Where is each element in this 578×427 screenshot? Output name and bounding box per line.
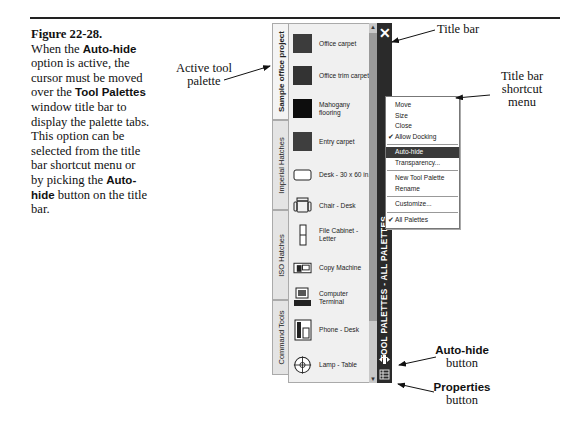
menu-item-size[interactable]: Size [386, 111, 459, 122]
menu-item-move[interactable]: Move [386, 100, 459, 111]
caption-term: Auto-hide [83, 43, 137, 55]
palette-title-text: TOOL PALETTES - ALL PALETTES [380, 216, 390, 360]
menu-label: Close [395, 122, 412, 129]
callout-title-bar: Title bar [437, 23, 479, 36]
tool-palettes-window: Sample office project Imperial Hatches I… [272, 23, 392, 383]
menu-label: Allow Docking [395, 133, 436, 140]
top-rule [30, 17, 560, 19]
palette-title: TOOL PALETTES - ALL PALETTES [377, 223, 392, 353]
menu-item-transparency[interactable]: Transparency... [386, 158, 459, 169]
figure-label: Figure 22-28. [31, 27, 151, 42]
menu-label: All Palettes [395, 216, 428, 223]
title-bar-shortcut-menu: Move Size Close ✔Allow Docking Auto-hide… [385, 96, 460, 229]
tab-label: Imperial Hatches [277, 137, 286, 193]
callout-line: palette [176, 75, 232, 88]
file-cabinet-icon [293, 224, 312, 246]
scroll-up-arrow-icon[interactable]: ▲ [369, 23, 377, 31]
auto-hide-button[interactable] [379, 354, 390, 365]
menu-item-allow-docking[interactable]: ✔Allow Docking [386, 132, 459, 143]
swatch-icon [293, 66, 312, 85]
chair-icon [293, 196, 312, 215]
lamp-icon [293, 354, 312, 376]
swatch-icon [293, 34, 312, 53]
check-icon: ✔ [388, 132, 394, 143]
auto-hide-icon [379, 354, 390, 365]
callout-line: button [432, 357, 492, 370]
tab-iso-hatches[interactable]: ISO Hatches [272, 210, 289, 300]
callout-auto-hide-button: Auto-hide button [432, 344, 492, 370]
palette-content: Office carpet Office trim carpet Mahogan… [288, 23, 369, 383]
tool-computer-terminal[interactable]: Computer Terminal [293, 287, 371, 309]
tab-imperial-hatches[interactable]: Imperial Hatches [272, 120, 289, 210]
menu-separator [387, 196, 458, 197]
tab-label: ISO Hatches [277, 234, 286, 277]
tool-lamp-table[interactable]: Lamp - Table [293, 354, 371, 376]
menu-separator [387, 170, 458, 171]
tool-entry-carpet[interactable]: Entry carpet [293, 132, 371, 151]
callout-properties-button: Properties button [430, 381, 494, 407]
menu-item-auto-hide[interactable]: Auto-hide [386, 147, 459, 158]
tool-label: Desk - 30 x 60 in. [319, 171, 370, 179]
check-icon: ✔ [388, 215, 394, 226]
scrollbar-thumb[interactable] [369, 33, 377, 321]
callout-line: menu [492, 96, 552, 109]
menu-item-all-palettes[interactable]: ✔All Palettes [386, 215, 459, 226]
tool-label: File Cabinet - Letter [319, 227, 371, 243]
tool-file-cabinet[interactable]: File Cabinet - Letter [293, 224, 371, 246]
menu-label: Size [395, 112, 408, 119]
menu-item-new-tool-palette[interactable]: New Tool Palette [386, 173, 459, 184]
menu-item-customize[interactable]: Customize... [386, 199, 459, 210]
menu-separator [387, 144, 458, 145]
phone-icon [293, 319, 312, 341]
tool-label: Computer Terminal [319, 290, 371, 306]
menu-separator [387, 212, 458, 213]
tab-label: Command Tools [277, 310, 286, 364]
tool-label: Entry carpet [319, 138, 355, 146]
menu-label: Rename [395, 185, 420, 192]
tool-label: Office trim carpet [319, 72, 369, 80]
callout-title-bar-shortcut-menu: Title bar shortcut menu [492, 70, 552, 109]
copy-machine-icon [293, 258, 312, 277]
tool-label: Office carpet [319, 40, 356, 48]
palette-tabs: Sample office project Imperial Hatches I… [272, 23, 289, 383]
menu-label: New Tool Palette [395, 174, 444, 181]
tab-sample-office-project[interactable]: Sample office project [272, 23, 289, 120]
tool-chair-desk[interactable]: Chair - Desk [293, 196, 371, 215]
scroll-down-arrow-icon[interactable]: ▼ [369, 375, 377, 383]
callout-line: button [430, 394, 494, 407]
menu-item-close[interactable]: Close [386, 121, 459, 132]
caption-text: When the [31, 42, 83, 56]
tool-label: Chair - Desk [319, 202, 356, 210]
menu-label: Move [395, 101, 411, 108]
menu-label: Transparency... [395, 159, 440, 166]
desk-icon [293, 165, 312, 184]
tab-command-tools[interactable]: Command Tools [272, 300, 289, 375]
close-icon[interactable]: ✕ [377, 25, 392, 41]
tool-label: Phone - Desk [319, 326, 359, 334]
menu-item-rename[interactable]: Rename [386, 184, 459, 195]
menu-label: Auto-hide [395, 148, 423, 155]
tool-mahogany-flooring[interactable]: Mahogany flooring [293, 99, 371, 118]
tool-office-carpet[interactable]: Office carpet [293, 34, 371, 53]
figure-caption: Figure 22-28. When the Auto-hide option … [31, 27, 151, 217]
tool-label: Lamp - Table [319, 361, 357, 369]
tool-desk[interactable]: Desk - 30 x 60 in. [293, 165, 371, 184]
tool-copy-machine[interactable]: Copy Machine [293, 258, 371, 277]
caption-term: Tool Palettes [75, 86, 146, 98]
tool-office-trim-carpet[interactable]: Office trim carpet [293, 66, 371, 85]
swatch-icon [293, 99, 312, 118]
tab-label: Sample office project [277, 31, 286, 112]
callout-active-tool-palette: Active tool palette [176, 62, 232, 88]
palette-scrollbar[interactable]: ▲ ▼ [369, 23, 377, 383]
swatch-icon [293, 132, 312, 151]
tool-label: Mahogany flooring [319, 101, 371, 117]
tool-label: Copy Machine [319, 264, 361, 272]
tool-phone-desk[interactable]: Phone - Desk [293, 319, 371, 341]
menu-label: Customize... [395, 200, 432, 207]
computer-icon [293, 287, 312, 309]
properties-icon [379, 369, 390, 380]
properties-button[interactable] [379, 369, 390, 380]
